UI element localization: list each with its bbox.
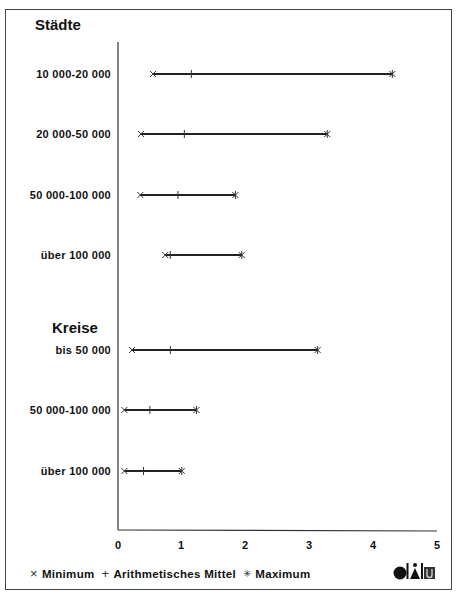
x-tick-label: 3 <box>306 539 312 551</box>
plus-icon: + <box>101 566 109 581</box>
legend-item-minimum: × Minimum <box>30 566 94 581</box>
asterisk-icon: ✳ <box>243 568 251 579</box>
legend: × Minimum + Arithmetisches Mittel ✳ Maxi… <box>30 566 317 581</box>
x-tick-label: 5 <box>434 539 440 551</box>
legend-item-maximum: ✳ Maximum <box>243 568 310 580</box>
legend-label: Minimum <box>42 568 95 580</box>
plot-area <box>0 0 456 594</box>
x-tick-label: 1 <box>178 539 184 551</box>
legend-item-mean: + Arithmetisches Mittel <box>101 566 236 581</box>
cross-icon: × <box>30 566 38 581</box>
x-tick-label: 0 <box>115 539 121 551</box>
legend-label: Maximum <box>255 568 310 580</box>
legend-label: Arithmetisches Mittel <box>113 568 236 580</box>
x-tick-label: 2 <box>242 539 248 551</box>
x-tick-label: 4 <box>370 539 376 551</box>
x-axis-line <box>118 530 437 531</box>
difu-logo-icon <box>393 561 437 581</box>
range-series <box>121 70 395 475</box>
